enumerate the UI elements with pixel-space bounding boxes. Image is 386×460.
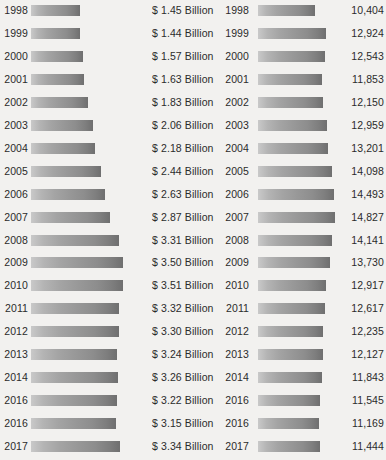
bar-category-label: 2013 xyxy=(2,348,28,361)
bar-row: 200312,959 xyxy=(193,119,386,142)
bar xyxy=(258,28,326,39)
bar-row: 200413,201 xyxy=(193,142,386,165)
bar xyxy=(258,235,332,246)
bar-category-label: 2016 xyxy=(223,417,249,430)
bar-row: 2010$ 3.51 Billion xyxy=(0,279,193,302)
bar xyxy=(258,97,323,108)
bar xyxy=(258,349,323,360)
bar-row: 200714,827 xyxy=(193,211,386,234)
bar xyxy=(258,74,322,85)
bar-value-label: 13,201 xyxy=(348,142,384,155)
bar xyxy=(258,441,320,452)
bar xyxy=(258,303,325,314)
bar xyxy=(258,395,320,406)
bar-category-label: 2011 xyxy=(2,302,28,315)
bar xyxy=(31,349,117,360)
bar-category-label: 2010 xyxy=(223,279,249,292)
bar-category-label: 2000 xyxy=(2,50,28,63)
bar-category-label: 2007 xyxy=(223,211,249,224)
bar xyxy=(31,395,117,406)
bar xyxy=(258,143,328,154)
bar-row: 2007$ 2.87 Billion xyxy=(0,211,193,234)
bar-category-label: 2003 xyxy=(2,119,28,132)
bar-category-label: 2002 xyxy=(2,96,28,109)
bar xyxy=(258,166,332,177)
bar-row: 2012$ 3.30 Billion xyxy=(0,325,193,348)
bar-category-label: 2017 xyxy=(223,440,249,453)
bar-category-label: 1999 xyxy=(2,27,28,40)
bar-row: 1998$ 1.45 Billion xyxy=(0,4,193,27)
bar xyxy=(31,212,110,223)
bar-row: 200614,493 xyxy=(193,188,386,211)
bar-value-label: 11,444 xyxy=(348,440,384,453)
bar-row: 201012,917 xyxy=(193,279,386,302)
bar-value-label: 12,924 xyxy=(348,27,384,40)
bar-value-label: 14,141 xyxy=(348,234,384,247)
bar-value-label: 14,493 xyxy=(348,188,384,201)
bar-value-label: 12,150 xyxy=(348,96,384,109)
bar-row: 2009$ 3.50 Billion xyxy=(0,256,193,279)
bar-row: 2006$ 2.63 Billion xyxy=(0,188,193,211)
bar-row: 199810,404 xyxy=(193,4,386,27)
count-bar-chart-panel: 199810,404199912,924200012,543200111,853… xyxy=(193,0,386,460)
bar-category-label: 2006 xyxy=(223,188,249,201)
bar-value-label: 13,730 xyxy=(348,256,384,269)
bar-value-label: 12,617 xyxy=(348,302,384,315)
bar-category-label: 2001 xyxy=(223,73,249,86)
bar-row: 2016$ 3.22 Billion xyxy=(0,394,193,417)
bar xyxy=(258,257,330,268)
bar-row: 2000$ 1.57 Billion xyxy=(0,50,193,73)
bar xyxy=(31,441,120,452)
bar xyxy=(31,189,105,200)
bar-category-label: 2007 xyxy=(2,211,28,224)
bar xyxy=(31,74,84,85)
bar xyxy=(258,372,322,383)
bar-row: 2004$ 2.18 Billion xyxy=(0,142,193,165)
bar xyxy=(31,372,118,383)
bar-category-label: 1999 xyxy=(223,27,249,40)
bar-row: 200111,853 xyxy=(193,73,386,96)
bar-category-label: 2016 xyxy=(2,394,28,407)
bar-row: 2011$ 3.32 Billion xyxy=(0,302,193,325)
bar-category-label: 2016 xyxy=(223,394,249,407)
bar xyxy=(31,257,123,268)
bar-category-label: 2014 xyxy=(223,371,249,384)
revenue-bar-chart-panel: 1998$ 1.45 Billion1999$ 1.44 Billion2000… xyxy=(0,0,193,460)
bar-row: 2013$ 3.24 Billion xyxy=(0,348,193,371)
bar xyxy=(31,280,123,291)
bar-category-label: 2006 xyxy=(2,188,28,201)
bar xyxy=(31,28,80,39)
bar-row: 2005$ 2.44 Billion xyxy=(0,165,193,188)
bar xyxy=(31,418,116,429)
bar-category-label: 2012 xyxy=(2,325,28,338)
bar-value-label: 14,098 xyxy=(348,165,384,178)
bar-row: 201611,545 xyxy=(193,394,386,417)
bar-row: 201112,617 xyxy=(193,302,386,325)
bar-category-label: 2010 xyxy=(2,279,28,292)
bar-value-label: 11,853 xyxy=(348,73,384,86)
bar xyxy=(31,120,93,131)
bar-row: 201711,444 xyxy=(193,440,386,460)
bar-row: 200814,141 xyxy=(193,234,386,257)
bar-category-label: 2012 xyxy=(223,325,249,338)
bar-row: 201312,127 xyxy=(193,348,386,371)
bar-value-label: 12,959 xyxy=(348,119,384,132)
bar-category-label: 2001 xyxy=(2,73,28,86)
bar-category-label: 2016 xyxy=(2,417,28,430)
bar-category-label: 2004 xyxy=(2,142,28,155)
bar-category-label: 2008 xyxy=(2,234,28,247)
bar-row: 200212,150 xyxy=(193,96,386,119)
dual-bar-chart: 1998$ 1.45 Billion1999$ 1.44 Billion2000… xyxy=(0,0,386,460)
bar-category-label: 2008 xyxy=(223,234,249,247)
bar-row: 2002$ 1.83 Billion xyxy=(0,96,193,119)
bar xyxy=(31,51,83,62)
bar xyxy=(31,143,95,154)
bar-category-label: 2009 xyxy=(2,256,28,269)
bar-value-label: 12,127 xyxy=(348,348,384,361)
bar-category-label: 2011 xyxy=(223,302,249,315)
bar-row: 201212,235 xyxy=(193,325,386,348)
bar xyxy=(258,212,335,223)
bar-value-label: 11,843 xyxy=(348,371,384,384)
bar xyxy=(31,326,119,337)
bar-category-label: 1998 xyxy=(223,4,249,17)
